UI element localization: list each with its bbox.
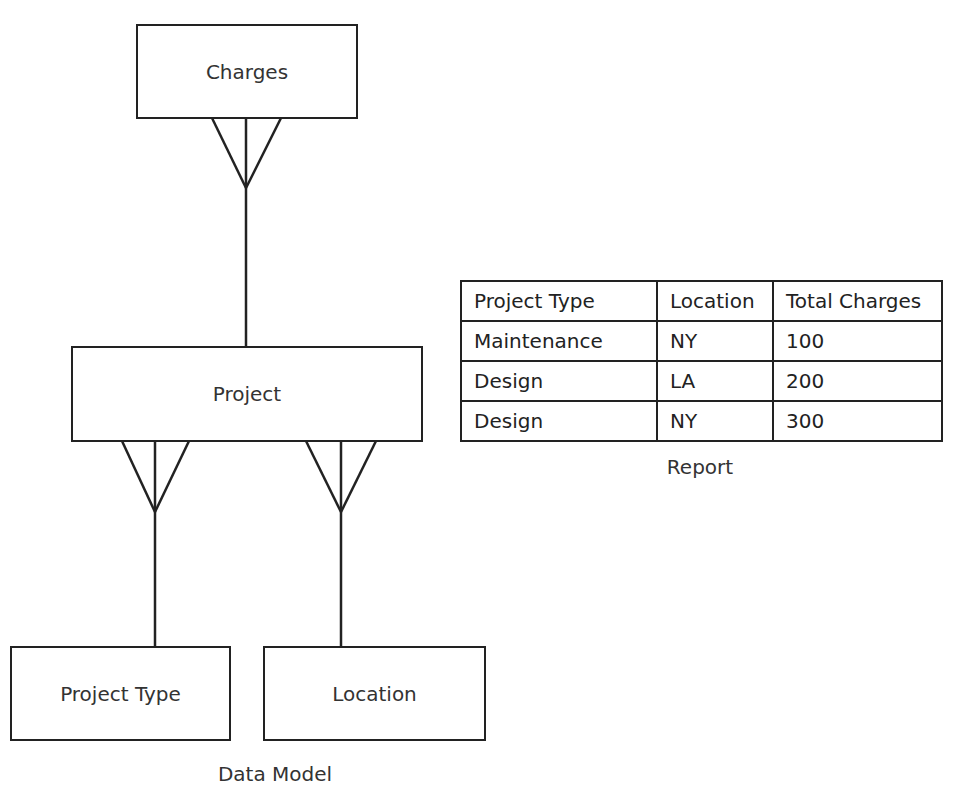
table-cell: 200 bbox=[773, 361, 942, 401]
table-header-row: Project Type Location Total Charges bbox=[461, 281, 942, 321]
entity-project-type: Project Type bbox=[10, 646, 231, 741]
entity-label: Project bbox=[213, 382, 281, 406]
report-table: Project Type Location Total Charges Main… bbox=[460, 280, 943, 442]
crows-foot-charges-icon bbox=[212, 118, 281, 348]
entity-label: Location bbox=[332, 682, 417, 706]
table-row: Design LA 200 bbox=[461, 361, 942, 401]
table-cell: NY bbox=[657, 321, 773, 361]
table-cell: LA bbox=[657, 361, 773, 401]
table-cell: 300 bbox=[773, 401, 942, 441]
entity-charges: Charges bbox=[136, 24, 358, 119]
crows-foot-project-type-icon bbox=[122, 441, 189, 648]
table-row: Design NY 300 bbox=[461, 401, 942, 441]
table-cell: NY bbox=[657, 401, 773, 441]
entity-label: Charges bbox=[206, 60, 288, 84]
column-header: Total Charges bbox=[773, 281, 942, 321]
table-cell: Design bbox=[461, 361, 657, 401]
crows-foot-location-icon bbox=[306, 441, 376, 648]
entity-label: Project Type bbox=[60, 682, 181, 706]
table-cell: Design bbox=[461, 401, 657, 441]
diagram-caption: Data Model bbox=[150, 762, 400, 785]
entity-project: Project bbox=[71, 346, 423, 442]
report-caption: Report bbox=[460, 455, 940, 479]
table-cell: 100 bbox=[773, 321, 942, 361]
table-cell: Maintenance bbox=[461, 321, 657, 361]
column-header: Location bbox=[657, 281, 773, 321]
table-row: Maintenance NY 100 bbox=[461, 321, 942, 361]
column-header: Project Type bbox=[461, 281, 657, 321]
entity-location: Location bbox=[263, 646, 486, 741]
